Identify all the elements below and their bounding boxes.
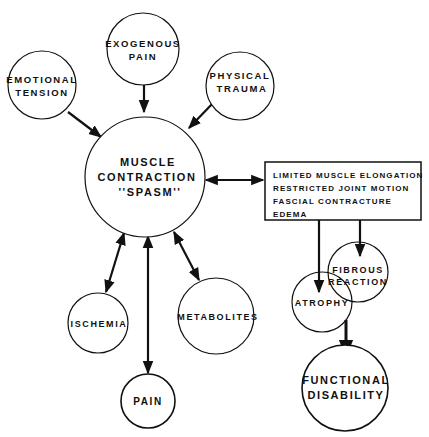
svg-text:MUSCLE: MUSCLE	[120, 156, 176, 168]
node-metabolites: METABOLITES	[177, 278, 258, 354]
node-exogenous-pain: EXOGENOUS PAIN	[105, 13, 181, 85]
arrow-spasm-ischemia	[106, 233, 124, 292]
svg-text:DISABILITY: DISABILITY	[307, 389, 384, 401]
node-ischemia: ISCHEMIA	[68, 293, 128, 353]
node-muscle-contraction: MUSCLE CONTRACTION ''SPASM''	[85, 117, 205, 237]
effect-item: EDEMA	[273, 210, 307, 219]
svg-text:ATROPHY: ATROPHY	[295, 298, 350, 308]
effect-item: FASCIAL CONTRACTURE	[273, 197, 392, 206]
svg-text:EMOTIONAL: EMOTIONAL	[6, 74, 77, 85]
svg-text:EXOGENOUS: EXOGENOUS	[105, 38, 181, 49]
svg-text:METABOLITES: METABOLITES	[177, 312, 258, 322]
svg-text:FUNCTIONAL: FUNCTIONAL	[302, 374, 390, 386]
node-atrophy: ATROPHY	[292, 272, 352, 332]
muscle-spasm-cycle-diagram: EMOTIONAL TENSION EXOGENOUS PAIN PHYSICA…	[0, 0, 429, 437]
effect-item: LIMITED MUSCLE ELONGATION	[273, 171, 423, 180]
node-pain: PAIN	[121, 374, 175, 428]
svg-text:CONTRACTION: CONTRACTION	[98, 171, 197, 183]
arrow-spasm-metabolites	[174, 232, 199, 280]
effects-box: LIMITED MUSCLE ELONGATION RESTRICTED JOI…	[265, 162, 423, 220]
effect-item: RESTRICTED JOINT MOTION	[273, 184, 409, 193]
arrow-emotional-to-spasm	[68, 112, 101, 137]
svg-text:FIBROUS: FIBROUS	[332, 265, 384, 275]
svg-text:''SPASM'': ''SPASM''	[118, 186, 181, 198]
svg-text:PAIN: PAIN	[133, 396, 163, 407]
node-fibrous-reaction: FIBROUS REACTION	[328, 242, 388, 302]
node-emotional-tension: EMOTIONAL TENSION	[6, 51, 77, 119]
svg-text:PHYSICAL: PHYSICAL	[210, 70, 271, 81]
svg-text:TENSION: TENSION	[15, 87, 68, 98]
svg-text:TRAUMA: TRAUMA	[217, 83, 268, 94]
svg-text:REACTION: REACTION	[328, 277, 388, 287]
node-physical-trauma: PHYSICAL TRAUMA	[206, 52, 274, 120]
node-functional-disability: FUNCTIONAL DISABILITY	[302, 345, 390, 431]
svg-text:PAIN: PAIN	[129, 51, 157, 62]
arrow-trauma-to-spasm	[189, 103, 213, 128]
svg-text:ISCHEMIA: ISCHEMIA	[71, 319, 128, 329]
